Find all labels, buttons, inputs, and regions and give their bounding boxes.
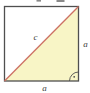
square-diagonal-diagram: c a a [0,0,90,92]
diagonal-label: c [34,32,38,42]
clipped-text-fragment-right [57,0,65,2]
angle-dot-icon [73,76,75,78]
bottom-side-label: a [42,83,47,93]
clipped-text-fragment-left [37,0,42,2]
right-side-label: a [83,39,88,49]
geometry-figure: c a a [0,0,90,92]
